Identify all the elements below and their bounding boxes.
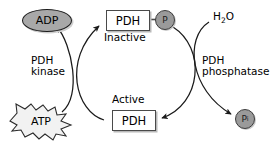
water-symbol: H [213,10,221,22]
enzyme-label-pdh-kinase: PDH kinase [31,55,65,77]
adp-label: ADP [36,14,59,27]
state-label-active: Active [112,94,144,105]
atp-node: ATP [10,104,72,138]
state-label-inactive: Inactive [104,32,146,43]
atp-label: ATP [31,115,51,128]
inorganic-phosphate-icon: Pi [235,109,255,129]
arc-active-to-inactive [77,26,104,120]
phosphate-group-icon: P [155,10,175,30]
pdh-inactive-box: PDH [106,10,150,31]
pi-subscript: i [247,116,249,123]
phosphate-label: P [162,15,167,25]
arc-inactive-to-active [162,27,195,118]
pdh-active-box: PDH [112,110,156,131]
enzyme-label-pdh-phosphatase: PDH phosphatase [202,55,269,77]
adp-node: ADP [22,9,72,32]
water-label: H2O [213,11,234,25]
pdh-inactive-label: PDH [116,14,141,28]
pdh-cycle-diagram: ADP ATP PDH P Pi Inactive Active H2O PDH… [0,0,276,143]
water-oxygen: O [226,10,234,22]
enzyme-kinase-line2: kinase [31,66,65,77]
enzyme-phosphatase-line2: phosphatase [202,66,269,77]
pdh-active-label: PDH [122,114,147,128]
